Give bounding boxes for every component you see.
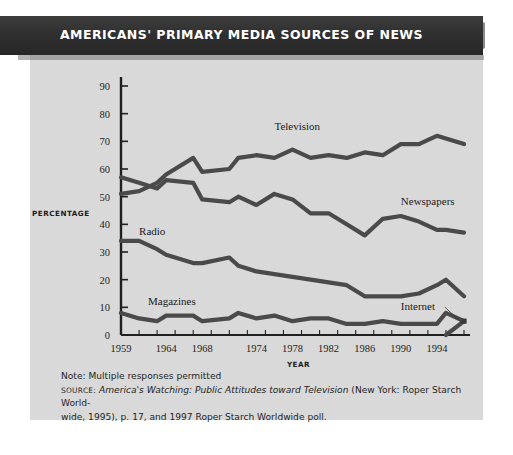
x-tick-label: 1964 [156, 343, 178, 354]
x-tick-label: 1959 [111, 343, 132, 354]
series-endpoint-marker-internet [461, 319, 466, 324]
y-tick-label: 10 [100, 302, 111, 313]
line-chart-svg: 0102030405060708090 19591964196819741978… [30, 55, 483, 420]
y-tick-label: 30 [100, 247, 111, 258]
series-line-radio [121, 241, 464, 296]
x-tick-label: 1974 [246, 343, 268, 354]
y-tick-label: 20 [100, 275, 111, 286]
title-banner: AMERICANS' PRIMARY MEDIA SOURCES OF NEWS [0, 16, 483, 55]
source-line-2: wide, 1995), p. 17, and 1997 Roper Starc… [61, 411, 466, 425]
x-tick-label: 1978 [282, 343, 303, 354]
chart-plot-area: 0102030405060708090 19591964196819741978… [30, 55, 483, 420]
y-tick-label: 70 [100, 136, 111, 147]
x-tick-label: 1982 [318, 343, 339, 354]
chart-title: AMERICANS' PRIMARY MEDIA SOURCES OF NEWS [0, 27, 483, 42]
x-tick-label: 1968 [192, 343, 213, 354]
series-line-internet [446, 321, 464, 335]
x-tick-label: 1986 [354, 343, 375, 354]
y-tick-label: 80 [100, 109, 111, 120]
series-label-magazines: Magazines [148, 295, 196, 307]
y-tick-label: 60 [100, 164, 111, 175]
source-kicker: SOURCE: [61, 386, 96, 395]
y-axis-tick-labels-group: 0102030405060708090 [100, 81, 111, 341]
figure-container: AMERICANS' PRIMARY MEDIA SOURCES OF NEWS… [0, 0, 513, 455]
source-title: America's Watching: Public Attitudes tow… [99, 385, 348, 395]
series-label-television: Television [274, 120, 320, 132]
y-axis-title: PERCENTAGE [32, 209, 90, 218]
y-tick-label: 90 [100, 81, 111, 92]
y-tick-label: 0 [105, 330, 110, 341]
x-tick-label: 1990 [390, 343, 411, 354]
y-tick-label: 50 [100, 192, 111, 203]
series-label-internet: Internet [401, 300, 435, 312]
series-label-radio: Radio [139, 225, 166, 237]
series-line-television [121, 136, 464, 194]
x-axis-tick-labels-group: 195919641968197419781982198619901994 [111, 343, 449, 354]
x-axis-ticks-group [121, 326, 464, 335]
x-axis-title: YEAR [286, 360, 310, 369]
y-tick-label: 40 [100, 219, 111, 230]
figure-notes: Note: Multiple responses permitted SOURC… [61, 370, 466, 424]
x-tick-label: 1994 [426, 343, 448, 354]
note-source: SOURCE: America's Watching: Public Attit… [61, 384, 466, 425]
series-line-magazines [121, 313, 464, 324]
series-label-newspapers: Newspapers [401, 195, 455, 207]
note-multiple-responses: Note: Multiple responses permitted [61, 370, 466, 384]
